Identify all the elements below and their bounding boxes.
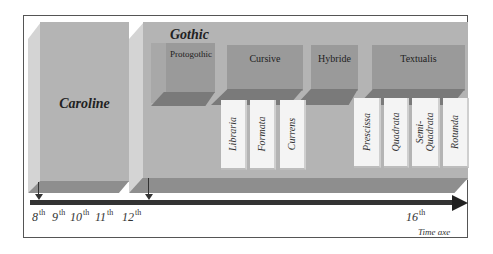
card-quadrata: Quadrata [384, 98, 409, 168]
textualis-front [372, 45, 465, 91]
protogothic-label: Protogothic [164, 49, 218, 59]
quadrata-label: Quadrata [391, 113, 401, 152]
card-semi-quadrata: Semi-Quadrata [412, 98, 440, 168]
hybride-front [311, 45, 358, 91]
caroline-label: Caroline [40, 96, 129, 112]
tick-9th: 9th [52, 208, 65, 225]
rotunda-label: Rotunda [450, 115, 460, 149]
currens-label: Currens [287, 118, 297, 150]
tick-11th: 11th [95, 208, 113, 225]
tick-16th: 16th [406, 208, 425, 225]
textualis-label: Textualis [372, 53, 465, 64]
time-axis-label: Time axe [418, 227, 450, 237]
cursive-label: Cursive [227, 53, 303, 64]
card-prescissa: Prescissa [354, 98, 381, 168]
gothic-floor [129, 178, 468, 193]
tick-8th: 8th [32, 208, 45, 225]
prescissa-label: Prescissa [362, 113, 372, 151]
card-currens: Currens [280, 100, 306, 170]
card-libraria: Libraria [221, 100, 247, 170]
caroline-floor [28, 181, 129, 193]
card-formata: Formata [250, 100, 276, 170]
libraria-label: Libraria [228, 117, 238, 151]
gothic-side-face [129, 22, 144, 192]
time-axis-arrowhead-icon [452, 195, 468, 211]
gothic-label: Gothic [170, 27, 209, 43]
cursive-front [227, 45, 303, 91]
formata-label: Formata [257, 117, 267, 152]
semi-quadrata-label: Semi-Quadrata [415, 102, 435, 162]
hybride-label: Hybride [311, 53, 358, 64]
tick-10th: 10th [70, 208, 89, 225]
tick-12th: 12th [122, 208, 141, 225]
card-rotunda: Rotunda [443, 98, 469, 168]
time-axis [30, 200, 455, 205]
